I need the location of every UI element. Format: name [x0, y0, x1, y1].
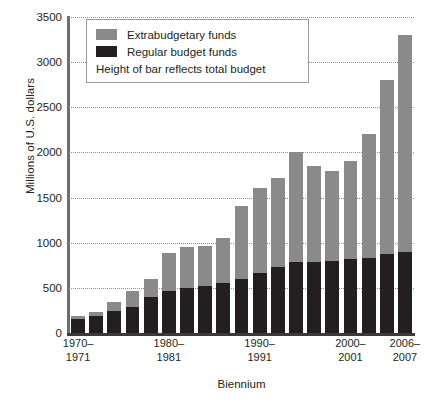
x-axis-tick-2006-2007: 2006–2007: [390, 337, 421, 364]
bar-2006-2007: [398, 35, 412, 333]
bar-segment-regular: [398, 252, 412, 333]
bar-segment-extrabudgetary: [253, 188, 267, 274]
x-tick-line1: 2006–: [390, 337, 421, 351]
y-axis-tick-500: 500: [18, 282, 62, 294]
bar-1996-1997: [307, 166, 321, 333]
x-axis-tick-2000-2001: 2000–2001: [335, 337, 366, 364]
bar-2002-2003: [362, 134, 376, 333]
x-axis-tick-1990-1991: 1990–1991: [244, 337, 275, 364]
bar-segment-regular: [253, 273, 267, 333]
bar-1976-1977: [126, 291, 140, 333]
bar-segment-extrabudgetary: [144, 279, 158, 297]
bar-segment-regular: [235, 279, 249, 333]
bar-segment-regular: [107, 311, 121, 333]
x-axis-tick-1970-1971: 1970–1971: [63, 337, 94, 364]
y-axis-tick-0: 0: [18, 327, 62, 339]
legend-note: Height of bar reflects total budget: [96, 63, 299, 75]
bar-segment-regular: [307, 262, 321, 333]
bar-segment-regular: [162, 291, 176, 333]
y-axis-tick-3000: 3000: [18, 56, 62, 68]
x-axis-title: Biennium: [69, 378, 414, 390]
legend-item-extrabudgetary: Extrabudgetary funds: [96, 26, 299, 43]
bar-segment-extrabudgetary: [307, 166, 321, 262]
bar-2000-2001: [344, 161, 358, 333]
bar-segment-regular: [126, 307, 140, 333]
x-tick-line1: 1980–: [154, 337, 185, 351]
bar-1978-1979: [144, 279, 158, 333]
bar-segment-extrabudgetary: [344, 161, 358, 259]
bar-segment-extrabudgetary: [398, 35, 412, 252]
x-tick-line2: 1971: [63, 351, 94, 365]
x-tick-line1: 1970–: [63, 337, 94, 351]
bar-segment-extrabudgetary: [126, 291, 140, 307]
bar-1980-1981: [162, 253, 176, 333]
y-axis-tick-1000: 1000: [18, 237, 62, 249]
bar-1998-1999: [325, 171, 339, 333]
bar-1970-1971: [71, 316, 85, 333]
y-axis-tick-2000: 2000: [18, 146, 62, 158]
bar-1972-1973: [89, 312, 103, 333]
bar-segment-regular: [180, 288, 194, 333]
y-axis-tick-3500: 3500: [18, 11, 62, 23]
x-tick-line2: 2001: [335, 351, 366, 365]
x-tick-line1: 1990–: [244, 337, 275, 351]
bar-segment-extrabudgetary: [362, 134, 376, 258]
bar-segment-extrabudgetary: [107, 302, 121, 311]
bar-1986-1987: [216, 238, 230, 333]
legend-label-regular: Regular budget funds: [127, 46, 237, 58]
bar-chart: Millions of U.S. dollars 050010001500200…: [0, 0, 433, 402]
bar-segment-extrabudgetary: [380, 80, 394, 254]
bar-segment-extrabudgetary: [325, 171, 339, 260]
black-swatch-icon: [96, 46, 117, 57]
bar-1994-1995: [289, 152, 303, 333]
bar-1992-1993: [271, 178, 285, 333]
legend-item-regular: Regular budget funds: [96, 43, 299, 60]
bar-segment-regular: [271, 267, 285, 333]
bar-segment-extrabudgetary: [162, 253, 176, 292]
y-axis-tick-2500: 2500: [18, 101, 62, 113]
bar-segment-regular: [89, 316, 103, 333]
bar-1990-1991: [253, 188, 267, 333]
gray-swatch-icon: [96, 29, 117, 40]
bar-segment-regular: [289, 262, 303, 333]
bar-2004-2005: [380, 80, 394, 333]
bar-segment-regular: [198, 286, 212, 333]
bar-segment-regular: [362, 258, 376, 333]
bar-segment-extrabudgetary: [235, 206, 249, 279]
bar-1988-1989: [235, 206, 249, 333]
bar-segment-regular: [216, 283, 230, 333]
bar-segment-extrabudgetary: [198, 246, 212, 286]
bar-segment-extrabudgetary: [289, 152, 303, 262]
bar-1974-1975: [107, 302, 121, 333]
x-tick-line2: 2007: [390, 351, 421, 365]
x-tick-line1: 2000–: [335, 337, 366, 351]
bar-segment-regular: [71, 319, 85, 333]
legend-label-extrabudgetary: Extrabudgetary funds: [127, 29, 236, 41]
bar-1984-1985: [198, 246, 212, 333]
bar-segment-regular: [344, 259, 358, 333]
bar-segment-regular: [144, 297, 158, 333]
bar-1982-1983: [180, 247, 194, 333]
chart-legend: Extrabudgetary funds Regular budget fund…: [86, 19, 309, 83]
y-axis-tick-labels: 0500100015002000250030003500: [14, 17, 62, 333]
x-axis-tick-labels: 1970–19711980–19811990–19912000–20012006…: [69, 337, 414, 377]
bar-segment-regular: [380, 254, 394, 333]
bar-segment-extrabudgetary: [271, 178, 285, 267]
bar-segment-regular: [325, 261, 339, 333]
x-axis-tick-1980-1981: 1980–1981: [154, 337, 185, 364]
bar-segment-extrabudgetary: [180, 247, 194, 288]
x-tick-line2: 1991: [244, 351, 275, 365]
y-axis-tick-1500: 1500: [18, 192, 62, 204]
bar-segment-extrabudgetary: [216, 238, 230, 283]
x-axis-line: [67, 333, 415, 336]
x-tick-line2: 1981: [154, 351, 185, 365]
